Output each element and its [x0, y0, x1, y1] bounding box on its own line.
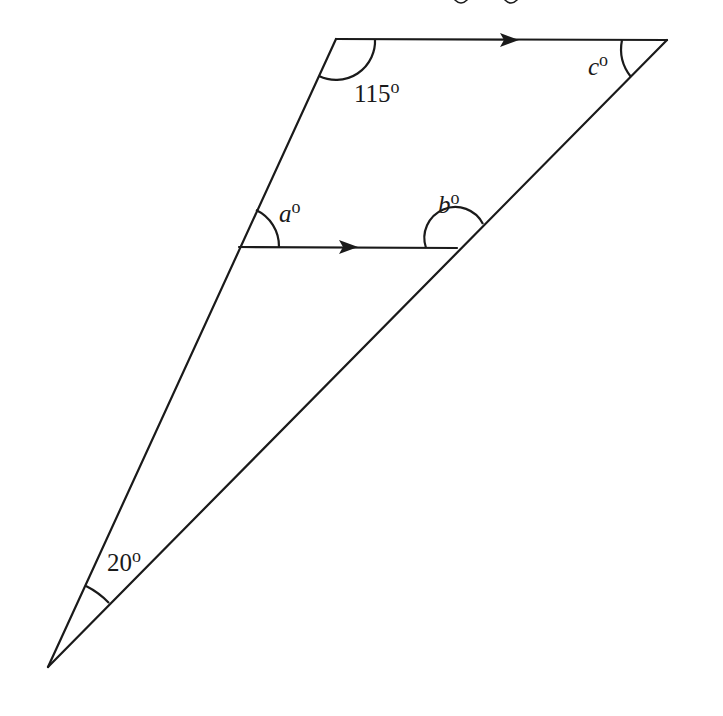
top-side [336, 39, 667, 40]
angle-label-20: 20o [107, 546, 141, 576]
angle-label-115: 115o [354, 77, 400, 107]
cropped-header-fragment [455, 0, 517, 3]
left-side [48, 39, 336, 667]
angle-arc-20 [86, 586, 109, 603]
angle-arc-c [621, 40, 631, 77]
angle-arc-a [256, 210, 279, 247]
triangle-diagram: 115o co ao bo 20o [0, 0, 723, 716]
angle-label-b: bo [438, 188, 460, 218]
angle-label-c: co [588, 50, 608, 80]
angle-label-a: ao [279, 197, 301, 227]
angle-arc-b [424, 207, 483, 248]
right-side [48, 40, 667, 667]
